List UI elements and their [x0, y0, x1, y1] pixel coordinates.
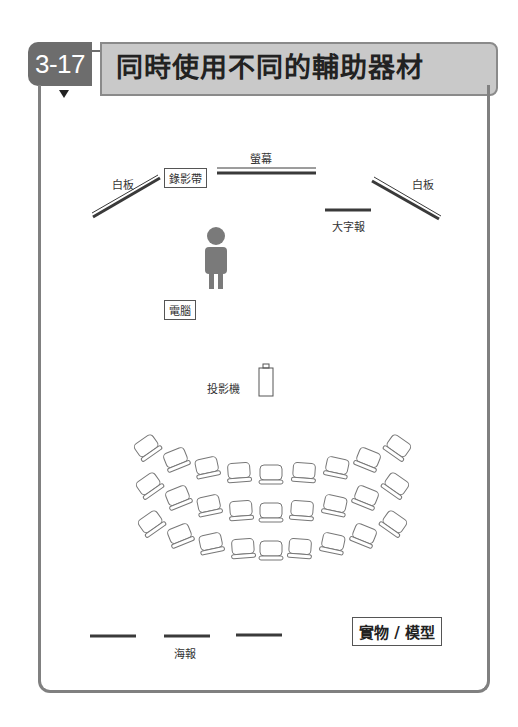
whiteboard-left-label: 白板: [112, 176, 134, 192]
seat: [134, 471, 165, 500]
seat: [380, 471, 411, 500]
seat: [162, 446, 191, 473]
seat: [132, 433, 163, 462]
seat: [349, 522, 378, 549]
seat: [321, 494, 348, 518]
seat: [259, 503, 283, 522]
poster-label: 海報: [174, 645, 196, 661]
computer-label: 電腦: [164, 300, 196, 320]
seat: [193, 456, 220, 480]
big-poster-label: 大字報: [332, 218, 365, 234]
seat: [289, 500, 314, 521]
seat: [195, 494, 222, 518]
seat: [228, 500, 253, 521]
whiteboard-right-label: 白板: [412, 176, 434, 192]
seat: [136, 509, 167, 538]
seat: [291, 462, 316, 483]
videotape-label: 錄影帶: [164, 168, 207, 188]
projector-label: 投影機: [207, 380, 240, 396]
seating-area: [132, 433, 413, 560]
seat: [287, 538, 312, 559]
seat: [351, 484, 380, 511]
seat: [226, 462, 251, 483]
seat: [197, 532, 224, 556]
seat: [319, 532, 346, 556]
projector-icon: [259, 364, 273, 396]
seat: [230, 538, 255, 559]
person-icon: [205, 227, 227, 289]
seat: [166, 522, 195, 549]
seat: [259, 465, 283, 484]
seat: [164, 484, 193, 511]
seat: [353, 446, 382, 473]
seat: [378, 509, 409, 538]
screen: [217, 168, 316, 173]
seat: [382, 433, 413, 462]
real-object-model-label: 實物 / 模型: [352, 617, 442, 646]
seat: [259, 541, 283, 560]
screen-label: 螢幕: [250, 150, 272, 166]
seat: [323, 456, 350, 480]
